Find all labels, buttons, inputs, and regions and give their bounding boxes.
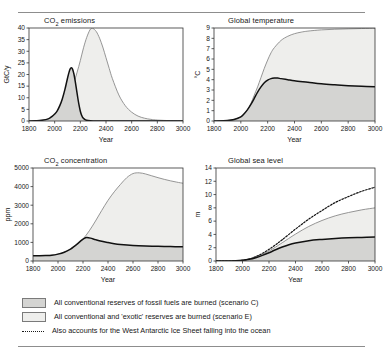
svg-text:1800: 1800 xyxy=(207,125,222,132)
svg-text:3000: 3000 xyxy=(14,202,29,209)
svg-text:4000: 4000 xyxy=(14,183,29,190)
legend-label-wais: Also accounts for the West Antarctic Ice… xyxy=(52,327,271,334)
svg-text:2000: 2000 xyxy=(235,265,250,272)
legend-item-scenario-e: All conventional and 'exotic' reserves a… xyxy=(18,310,368,324)
svg-text:10: 10 xyxy=(18,94,26,101)
svg-text:1800: 1800 xyxy=(26,265,41,272)
legend-label-scenario-c: All conventional reserves of fossil fuel… xyxy=(54,299,258,306)
svg-text:2000: 2000 xyxy=(233,125,248,132)
svg-text:5: 5 xyxy=(21,106,25,113)
svg-text:2200: 2200 xyxy=(260,125,275,132)
svg-text:0: 0 xyxy=(21,117,25,124)
svg-text:6: 6 xyxy=(208,217,212,224)
svg-text:1800: 1800 xyxy=(209,265,224,272)
svg-text:14: 14 xyxy=(205,164,213,171)
svg-text:30: 30 xyxy=(18,48,26,55)
svg-text:2600: 2600 xyxy=(315,265,330,272)
svg-text:35: 35 xyxy=(18,36,26,43)
svg-text:2400: 2400 xyxy=(101,265,116,272)
chart-co2-emissions: 1800200022002400260028003000051015202530… xyxy=(0,16,191,155)
svg-text:2800: 2800 xyxy=(151,265,166,272)
svg-text:2000: 2000 xyxy=(47,125,62,132)
svg-text:1: 1 xyxy=(206,107,210,114)
legend-item-scenario-c: All conventional reserves of fossil fuel… xyxy=(18,296,368,310)
svg-text:0: 0 xyxy=(208,257,212,264)
svg-text:7: 7 xyxy=(206,45,210,52)
svg-text:2800: 2800 xyxy=(341,265,356,272)
bottom-divider-rule xyxy=(18,346,365,347)
svg-text:25: 25 xyxy=(18,59,26,66)
svg-text:1800: 1800 xyxy=(22,125,37,132)
svg-text:10: 10 xyxy=(205,191,213,198)
svg-text:4: 4 xyxy=(208,231,212,238)
top-divider-rule xyxy=(18,12,365,13)
svg-text:3000: 3000 xyxy=(368,265,383,272)
panel-co2-concentration: CO2 concentration 1800200022002400260028… xyxy=(0,156,191,295)
svg-text:5: 5 xyxy=(206,66,210,73)
svg-text:2600: 2600 xyxy=(124,125,139,132)
svg-text:20: 20 xyxy=(18,71,26,78)
svg-text:40: 40 xyxy=(18,24,26,31)
svg-text:1000: 1000 xyxy=(14,239,29,246)
svg-text:9: 9 xyxy=(206,24,210,31)
svg-text:2000: 2000 xyxy=(51,265,66,272)
panel-global-sea-level: Global sea level 18002000220024002600280… xyxy=(192,156,383,295)
svg-text:3000: 3000 xyxy=(368,125,383,132)
svg-text:2400: 2400 xyxy=(99,125,114,132)
svg-text:5000: 5000 xyxy=(14,164,29,171)
legend: All conventional reserves of fossil fuel… xyxy=(18,296,368,338)
svg-text:2200: 2200 xyxy=(262,265,277,272)
svg-text:8: 8 xyxy=(208,204,212,211)
panel-global-temperature: Global temperature 180020002200240026002… xyxy=(192,16,383,155)
svg-text:2: 2 xyxy=(206,97,210,104)
svg-text:Year: Year xyxy=(99,136,114,144)
svg-text:2200: 2200 xyxy=(76,265,91,272)
legend-swatch-dotted-line xyxy=(22,331,44,332)
svg-text:0: 0 xyxy=(25,257,29,264)
svg-text:4: 4 xyxy=(206,76,210,83)
svg-text:8: 8 xyxy=(206,35,210,42)
svg-text:2: 2 xyxy=(208,244,212,251)
svg-text:2400: 2400 xyxy=(287,125,302,132)
svg-text:3000: 3000 xyxy=(176,125,191,132)
svg-text:3000: 3000 xyxy=(176,265,191,272)
svg-text:°C: °C xyxy=(194,71,202,79)
svg-text:2400: 2400 xyxy=(288,265,303,272)
svg-text:Year: Year xyxy=(101,276,116,284)
legend-item-wais: Also accounts for the West Antarctic Ice… xyxy=(18,324,368,338)
svg-text:Year: Year xyxy=(287,136,302,144)
svg-text:m: m xyxy=(194,211,202,217)
svg-text:0: 0 xyxy=(206,117,210,124)
svg-text:12: 12 xyxy=(205,178,213,185)
chart-co2-concentration: 1800200022002400260028003000010002000300… xyxy=(0,156,191,295)
legend-swatch-scenario-c xyxy=(22,298,46,308)
panel-grid: CO2 emissions 18002000220024002600280030… xyxy=(0,16,383,294)
climate-scenarios-figure: CO2 emissions 18002000220024002600280030… xyxy=(0,0,383,356)
svg-text:2200: 2200 xyxy=(73,125,88,132)
svg-text:6: 6 xyxy=(206,55,210,62)
svg-text:2800: 2800 xyxy=(341,125,356,132)
svg-text:ppm: ppm xyxy=(4,208,12,222)
svg-text:3: 3 xyxy=(206,86,210,93)
legend-label-scenario-e: All conventional and 'exotic' reserves a… xyxy=(54,313,252,320)
svg-text:2600: 2600 xyxy=(126,265,141,272)
svg-text:2800: 2800 xyxy=(150,125,165,132)
panel-co2-emissions: CO2 emissions 18002000220024002600280030… xyxy=(0,16,191,155)
svg-text:15: 15 xyxy=(18,82,26,89)
svg-text:2600: 2600 xyxy=(314,125,329,132)
svg-text:Year: Year xyxy=(288,276,303,284)
chart-global-sea-level: 180020002200240026002800300002468101214Y… xyxy=(192,156,383,295)
chart-global-temperature: 18002000220024002600280030000123456789Ye… xyxy=(192,16,383,155)
svg-text:GtC/y: GtC/y xyxy=(3,65,11,84)
legend-swatch-scenario-e xyxy=(22,312,46,322)
svg-text:2000: 2000 xyxy=(14,220,29,227)
